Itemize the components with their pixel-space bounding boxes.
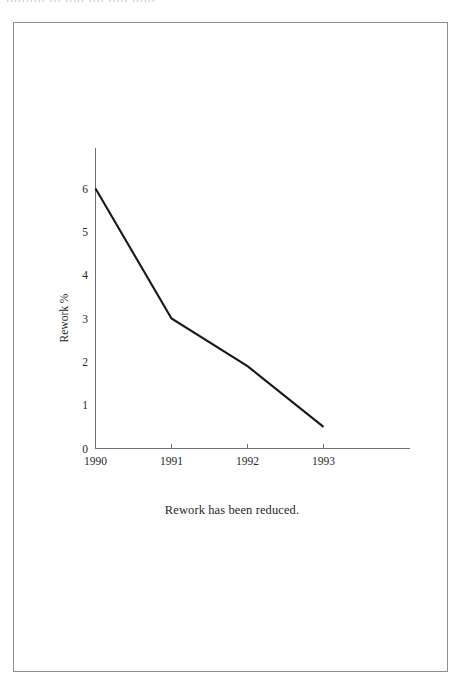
data-series-line [96, 189, 324, 427]
y-tick-label-5: 5 [82, 226, 88, 238]
y-tick-label-2: 2 [82, 356, 88, 368]
y-tick-label-4: 4 [82, 269, 88, 281]
x-tick-label-1993: 1993 [312, 455, 335, 467]
y-tick-label-3: 3 [82, 313, 88, 325]
x-tick-label-1992: 1992 [236, 455, 259, 467]
x-tick-label-1990: 1990 [84, 455, 107, 467]
figure-container: 0 1 2 3 4 5 6 1990 1991 1992 1993 Rework… [0, 0, 464, 691]
y-tick-label-6: 6 [82, 183, 88, 195]
line-chart: 0 1 2 3 4 5 6 1990 1991 1992 1993 Rework… [0, 0, 464, 691]
figure-caption: Rework has been reduced. [0, 503, 464, 518]
y-tick-label-0: 0 [82, 443, 88, 455]
y-tick-label-1: 1 [82, 399, 88, 411]
y-axis-title: Rework % [58, 293, 70, 342]
x-tick-label-1991: 1991 [160, 455, 183, 467]
